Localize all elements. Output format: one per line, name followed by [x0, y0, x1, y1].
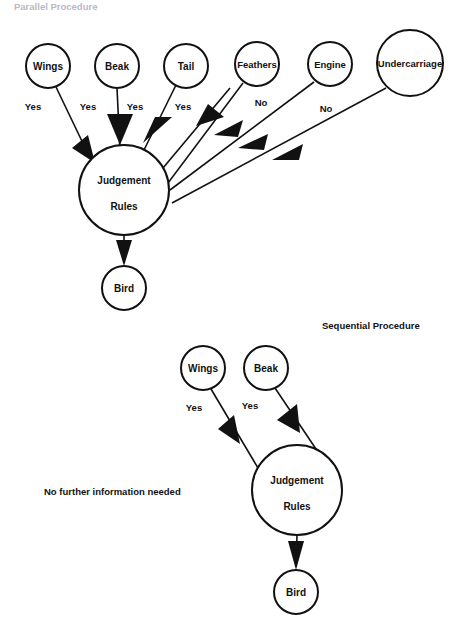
edge-label-tail2: Yes — [175, 101, 191, 112]
node-beak[interactable]: Beak — [95, 44, 139, 88]
sequential-procedure-group: Wings Beak Judgement Rules Bird Yes Yes … — [44, 346, 342, 614]
edge-line — [172, 88, 386, 203]
edge-wings-to-judgement — [56, 87, 95, 163]
edge-line — [163, 88, 230, 168]
node-label: Beak — [254, 363, 278, 374]
note-no-further-information: No further information needed — [44, 486, 181, 497]
edge-label-seq-beak: Yes — [242, 400, 258, 411]
node-label: Bird — [286, 587, 306, 598]
node-seq-wings[interactable]: Wings — [181, 346, 225, 390]
edge-label-seq-wings: Yes — [186, 402, 202, 413]
node-undercarriage[interactable]: Undercarriage — [377, 30, 443, 96]
arrow-head-icon — [288, 541, 304, 570]
arrow-head-icon — [116, 240, 132, 266]
parallel-edge-labels: Yes Yes Yes Yes No No — [25, 97, 333, 114]
node-feathers[interactable]: Feathers — [235, 42, 279, 86]
node-label: Feathers — [237, 59, 277, 70]
node-label-line2: Rules — [110, 201, 138, 212]
edge-engine-to-judgement — [170, 82, 314, 190]
parallel-procedure-group: Wings Beak Tail Feathers Engine Undercar — [25, 30, 443, 310]
node-label-line1: Judgement — [97, 175, 151, 186]
arrow-head-icon — [214, 120, 243, 137]
node-seq-bird[interactable]: Bird — [274, 570, 318, 614]
section-title-sequential: Sequential Procedure — [322, 320, 420, 331]
edge-beak-to-judgement — [107, 88, 133, 152]
edge-tail2-to-judgement — [163, 88, 230, 168]
node-label-line2: Rules — [283, 501, 311, 512]
arrow-head-icon — [107, 114, 133, 145]
edge-seq-beak-to-judgement — [275, 388, 318, 452]
edge-label-feathers: No — [255, 97, 268, 108]
edge-undercarriage-to-judgement — [172, 88, 386, 203]
node-seq-beak[interactable]: Beak — [244, 346, 288, 390]
node-label: Wings — [188, 363, 218, 374]
edge-label-engine: No — [320, 103, 333, 114]
edge-line — [170, 82, 314, 190]
sequential-nodes: Wings Beak Judgement Rules Bird — [181, 346, 342, 614]
section-title-parallel: Parallel Procedure — [14, 1, 97, 12]
node-bird[interactable]: Bird — [102, 266, 146, 310]
edge-label-beak: Yes — [80, 101, 96, 112]
edge-seq-judgement-to-bird — [288, 535, 304, 570]
edge-label-wings: Yes — [25, 101, 41, 112]
node-seq-judgement-rules[interactable]: Judgement Rules — [252, 445, 342, 535]
node-label: Beak — [105, 61, 129, 72]
node-label-line1: Judgement — [270, 475, 324, 486]
node-label: Engine — [314, 59, 346, 70]
arrow-head-icon — [143, 117, 172, 143]
node-shape[interactable] — [79, 145, 169, 235]
edge-feathers-to-judgement — [168, 83, 243, 183]
node-engine[interactable]: Engine — [308, 42, 352, 86]
node-label: Bird — [114, 283, 134, 294]
edge-tail-to-judgement — [143, 85, 176, 152]
node-shape[interactable] — [252, 445, 342, 535]
flow-diagram-canvas: Parallel Procedure Sequential Procedure — [0, 0, 462, 637]
node-label: Undercarriage — [378, 58, 442, 69]
node-wings[interactable]: Wings — [26, 44, 70, 88]
edge-judgement-to-bird — [116, 235, 132, 266]
node-judgement-rules[interactable]: Judgement Rules — [79, 145, 169, 235]
node-label: Tail — [178, 61, 195, 72]
node-tail[interactable]: Tail — [164, 44, 208, 88]
edge-label-tail: Yes — [127, 101, 143, 112]
node-label: Wings — [33, 61, 63, 72]
